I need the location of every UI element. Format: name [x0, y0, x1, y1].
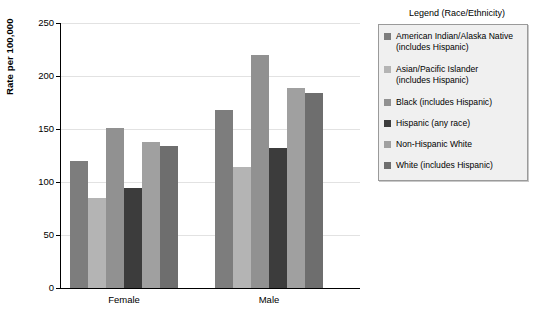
legend-swatch-icon: [384, 99, 391, 106]
x-axis-group-label: Female: [50, 295, 198, 305]
legend-swatch-icon: [384, 120, 391, 127]
plot-canvas: 050100150200250 FemaleMale: [60, 23, 360, 288]
bar-chart: Rate per 100,000 050100150200250 FemaleM…: [0, 0, 535, 317]
bar: [124, 188, 142, 288]
bar: [88, 198, 106, 288]
bar: [251, 55, 269, 288]
legend-item-label: Black (includes Hispanic): [396, 97, 492, 108]
bar: [215, 110, 233, 288]
legend-swatch-icon: [384, 162, 391, 169]
legend-item-label: White (includes Hispanic): [396, 160, 493, 171]
bar: [160, 146, 178, 288]
legend-item-label: Non-Hispanic White: [396, 139, 472, 150]
legend-swatch-icon: [384, 66, 391, 73]
y-axis-tick-label: 100: [14, 177, 54, 187]
legend-swatch-icon: [384, 141, 391, 148]
y-axis-tick-label: 50: [14, 230, 54, 240]
legend-item: Non-Hispanic White: [384, 139, 526, 150]
legend-item: White (includes Hispanic): [384, 160, 526, 171]
legend-item: Black (includes Hispanic): [384, 97, 526, 108]
bar: [106, 128, 124, 288]
y-axis-title: Rate per 100,000: [4, 0, 15, 95]
legend-title: Legend (Race/Ethnicity): [382, 8, 532, 18]
y-axis-tick-label: 200: [14, 71, 54, 81]
legend-item: Hispanic (any race): [384, 118, 526, 129]
bar: [305, 93, 323, 288]
bar: [269, 148, 287, 288]
plot-area: Rate per 100,000 050100150200250 FemaleM…: [0, 0, 370, 317]
legend-swatch-icon: [384, 33, 391, 40]
bars-layer: [60, 23, 360, 288]
legend-item-label: American Indian/Alaska Native (includes …: [396, 31, 513, 53]
legend-item: American Indian/Alaska Native (includes …: [384, 31, 526, 53]
y-axis-tick-label: 0: [14, 283, 54, 293]
legend-item: Asian/Pacific Islander (includes Hispani…: [384, 64, 526, 86]
legend-item-label: Asian/Pacific Islander (includes Hispani…: [396, 64, 478, 86]
bar: [233, 167, 251, 288]
legend: American Indian/Alaska Native (includes …: [378, 24, 528, 181]
y-axis-tick-label: 250: [14, 18, 54, 28]
x-axis-line: [60, 288, 360, 289]
bar: [287, 88, 305, 288]
x-axis-group-label: Male: [195, 295, 343, 305]
bar: [70, 161, 88, 288]
bar: [142, 142, 160, 288]
y-axis-tick-label: 150: [14, 124, 54, 134]
legend-item-label: Hispanic (any race): [396, 118, 470, 129]
